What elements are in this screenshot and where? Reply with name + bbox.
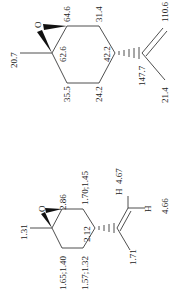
shift-methyl-top: 20.7 bbox=[9, 52, 19, 68]
shift-c6: 35.5 bbox=[62, 86, 72, 102]
shift-c1: 62.6 bbox=[58, 46, 68, 62]
shift-h2: 2.86 bbox=[58, 194, 68, 210]
chemical-structures-diagram: O 20.7 62.6 64.6 31.4 42.2 24.2 35.5 147… bbox=[0, 0, 174, 302]
shift-h9a: 4.67 bbox=[114, 168, 124, 184]
shift-c2: 64.6 bbox=[62, 6, 72, 22]
shift-h5: 1.57;1.32 bbox=[80, 256, 90, 290]
hashed-bond-top bbox=[119, 47, 139, 59]
oxygen-label-top: O bbox=[33, 21, 43, 28]
h-label-b: H bbox=[143, 205, 153, 212]
shift-c9: 110.6 bbox=[160, 2, 170, 22]
shift-methyl-bottom: 1.31 bbox=[19, 224, 29, 240]
shift-h3: 1.70;1.45 bbox=[80, 170, 90, 205]
h-label-a: H bbox=[114, 188, 124, 195]
shift-c5: 24.2 bbox=[94, 86, 104, 102]
hashed-bond-bottom bbox=[99, 223, 114, 233]
shift-c4: 42.2 bbox=[102, 46, 112, 62]
shift-c8: 147.7 bbox=[137, 65, 147, 86]
oxygen-label-bottom: O bbox=[37, 205, 47, 212]
shift-h9b: 4.66 bbox=[160, 198, 170, 214]
shift-h10: 1.71 bbox=[128, 249, 138, 265]
shift-h4: 2.12 bbox=[82, 226, 92, 242]
shift-h6: 1.65;1.40 bbox=[58, 255, 68, 290]
shift-c10: 21.4 bbox=[160, 87, 170, 103]
shift-c3: 31.4 bbox=[94, 6, 104, 22]
